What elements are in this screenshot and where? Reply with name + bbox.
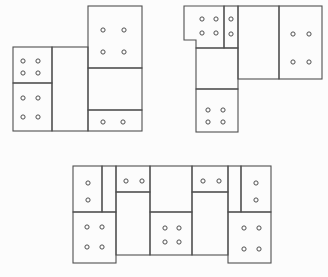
domino-cell [88,68,142,110]
pip-icon [242,247,246,251]
domino-cell [196,89,238,132]
pip-icon [257,247,261,251]
domino-figures-svg [0,0,328,277]
domino-cell [13,83,52,131]
pip-icon [122,50,126,54]
domino-cell [238,6,279,79]
domino-cell [150,166,192,212]
domino-cell [88,110,142,131]
domino-cell [241,166,271,212]
domino-cell [73,166,102,212]
pip-icon [85,245,89,249]
scanned-domino-diagram [0,0,328,277]
pip-icon [122,28,126,32]
pip-icon [217,179,221,183]
domino-cell [116,192,150,255]
pip-icon [229,17,233,21]
pip-icon [242,226,246,230]
pip-icon [214,31,218,35]
pip-icon [101,50,105,54]
pip-icon [163,226,167,230]
domino-cell [52,47,88,131]
pip-icon [100,245,104,249]
domino-cell [228,166,241,212]
pip-icon [21,71,25,75]
pip-icon [86,181,90,185]
pip-icon [254,198,258,202]
domino-figure-bottom [73,166,271,263]
pip-icon [86,198,90,202]
pip-icon [307,60,311,64]
domino-figure-top-left [13,6,142,131]
domino-cell [196,48,238,89]
pip-icon [206,108,210,112]
pip-icon [101,28,105,32]
domino-cell [184,6,224,48]
pip-icon [124,179,128,183]
pip-icon [206,120,210,124]
pip-icon [214,17,218,21]
pip-icon [85,225,89,229]
pip-icon [307,32,311,36]
domino-cell [13,47,52,83]
pip-icon [291,60,295,64]
pip-icon [36,96,40,100]
domino-cell [150,212,192,255]
pip-icon [200,31,204,35]
domino-cell [279,6,322,79]
pip-icon [291,32,295,36]
domino-cell [228,212,271,263]
pip-icon [229,32,233,36]
pip-icon [36,71,40,75]
pip-icon [221,108,225,112]
pip-icon [201,179,205,183]
domino-cell [192,192,228,255]
pip-icon [177,226,181,230]
domino-cell [116,166,150,192]
pip-icon [257,226,261,230]
domino-cell [102,166,116,212]
pip-icon [36,59,40,63]
pip-icon [200,17,204,21]
pip-icon [121,120,125,124]
pip-icon [221,120,225,124]
pip-icon [254,181,258,185]
domino-cell [224,6,238,48]
pip-icon [101,120,105,124]
domino-cell [73,212,116,263]
domino-figure-top-right [184,6,322,132]
pip-icon [21,115,25,119]
domino-cell [88,6,142,68]
pip-icon [36,115,40,119]
domino-cell [192,166,228,192]
pip-icon [21,96,25,100]
pip-icon [140,179,144,183]
pip-icon [21,59,25,63]
pip-icon [163,240,167,244]
pip-icon [177,240,181,244]
pip-icon [100,225,104,229]
